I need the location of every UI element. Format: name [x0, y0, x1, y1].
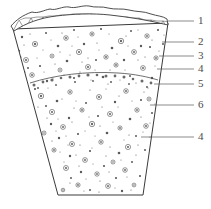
- cross-section-diagram: 1 2 3 4 5 6 4: [0, 0, 211, 209]
- body-outline: [13, 23, 168, 195]
- callout-label-3: 3: [198, 49, 204, 61]
- figure-root: 1 2 3 4 5 6 4: [0, 0, 211, 209]
- callout-labels-group: 1 2 3 4 5 6 4: [198, 14, 204, 142]
- callout-label-4b: 4: [198, 130, 204, 142]
- body-outline-group: [13, 23, 168, 195]
- callout-label-2: 2: [198, 35, 204, 47]
- callout-label-1: 1: [198, 14, 204, 26]
- callout-label-6: 6: [198, 98, 204, 110]
- callout-label-5: 5: [198, 77, 204, 89]
- callout-label-4a: 4: [198, 62, 204, 74]
